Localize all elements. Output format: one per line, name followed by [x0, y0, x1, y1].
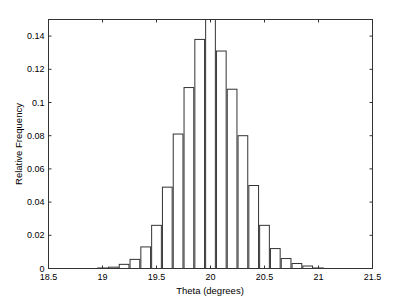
- y-tick-label: 0.14: [27, 31, 45, 41]
- histogram-bar: [152, 225, 162, 268]
- histogram-bar: [206, 20, 216, 269]
- histogram-bar: [238, 136, 248, 269]
- histogram-bar: [227, 89, 237, 268]
- x-axis-label: Theta (degrees): [176, 285, 244, 296]
- histogram-bar: [141, 247, 151, 269]
- histogram-bar: [130, 259, 140, 268]
- y-tick-label: 0: [39, 264, 44, 274]
- x-tick-label: 20: [205, 272, 215, 282]
- x-tick-label: 21.5: [364, 272, 382, 282]
- y-tick-label: 0.12: [27, 64, 45, 74]
- x-tick-label: 21: [313, 272, 323, 282]
- y-tick-label: 0.02: [27, 230, 45, 240]
- x-tick-label: 19.5: [148, 272, 166, 282]
- y-axis-label: Relative Frequency: [13, 103, 24, 185]
- histogram-bar: [260, 225, 270, 268]
- y-tick-label: 0.04: [27, 197, 45, 207]
- histogram-bar: [292, 264, 302, 269]
- histogram-bar: [270, 249, 280, 269]
- histogram-chart: 18.51919.52020.52121.5 00.020.040.060.08…: [0, 0, 400, 302]
- histogram-bar: [162, 187, 172, 268]
- histogram-bars: [98, 20, 324, 269]
- histogram-bar: [195, 39, 205, 268]
- histogram-bar: [173, 134, 183, 268]
- y-tick-label: 0.1: [32, 98, 45, 108]
- histogram-bar: [216, 51, 226, 268]
- histogram-bar: [184, 88, 194, 269]
- x-tick-label: 20.5: [256, 272, 274, 282]
- y-tick-label: 0.08: [27, 131, 45, 141]
- histogram-bar: [281, 259, 291, 269]
- x-tick-label: 19: [97, 272, 107, 282]
- y-tick-label: 0.06: [27, 164, 45, 174]
- histogram-bar: [249, 186, 259, 269]
- histogram-bar: [119, 264, 129, 268]
